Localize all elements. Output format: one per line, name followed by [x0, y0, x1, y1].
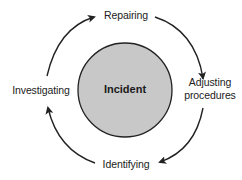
step-adjusting-line1: Adjusting — [178, 76, 242, 89]
step-investigating: Investigating — [8, 84, 74, 97]
arrow-adjusting-to-identifying — [160, 108, 203, 162]
center-label: Incident — [95, 83, 155, 95]
step-repairing: Repairing — [95, 9, 157, 22]
step-adjusting-line2: procedures — [178, 89, 242, 102]
step-adjusting-procedures: Adjusting procedures — [178, 76, 242, 102]
step-identifying: Identifying — [95, 158, 157, 171]
